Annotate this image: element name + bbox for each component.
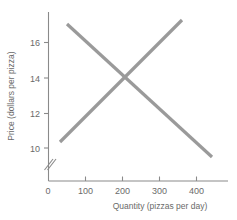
y-tick-label-10: 10 [30, 144, 40, 154]
chart-canvas: 16 14 12 10 0 100 200 300 400 Quantity (… [0, 0, 237, 220]
x-tick-label-300: 300 [152, 186, 167, 196]
demand-curve [67, 24, 212, 157]
supply-curve [60, 20, 182, 142]
y-axis-break-icon [45, 159, 57, 170]
origin-label-0: 0 [45, 186, 50, 196]
y-axis-title: Price (dollars per pizza) [6, 51, 16, 140]
x-tick-label-400: 400 [189, 186, 204, 196]
x-tick-label-200: 200 [115, 186, 130, 196]
y-tick-label-12: 12 [30, 109, 40, 119]
x-tick-label-100: 100 [78, 186, 93, 196]
supply-demand-chart: 16 14 12 10 0 100 200 300 400 Quantity (… [0, 0, 237, 220]
y-tick-label-14: 14 [30, 74, 40, 84]
x-axis-title: Quantity (pizzas per day) [113, 201, 208, 211]
y-tick-label-16: 16 [30, 38, 40, 48]
